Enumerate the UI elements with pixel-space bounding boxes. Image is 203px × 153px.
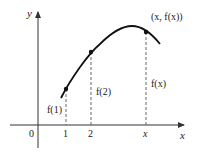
label-fx: f(x) — [151, 78, 166, 90]
point-annotation: (x, f(x)) — [151, 11, 183, 23]
y-axis-label: y — [26, 7, 32, 19]
point-f1 — [64, 87, 68, 91]
function-graph-figure: y x 0 1 2 x f(1) f(2) f(x) (x, f(x)) — [0, 0, 203, 153]
point-fx — [144, 30, 148, 34]
tick-label-2: 2 — [88, 128, 93, 139]
tick-label-x: x — [142, 128, 148, 139]
tick-label-1: 1 — [63, 128, 68, 139]
label-f2: f(2) — [96, 86, 111, 98]
label-f1: f(1) — [47, 104, 62, 116]
x-axis-label: x — [179, 129, 185, 141]
point-f2 — [89, 50, 93, 54]
origin-label: 0 — [29, 128, 34, 139]
